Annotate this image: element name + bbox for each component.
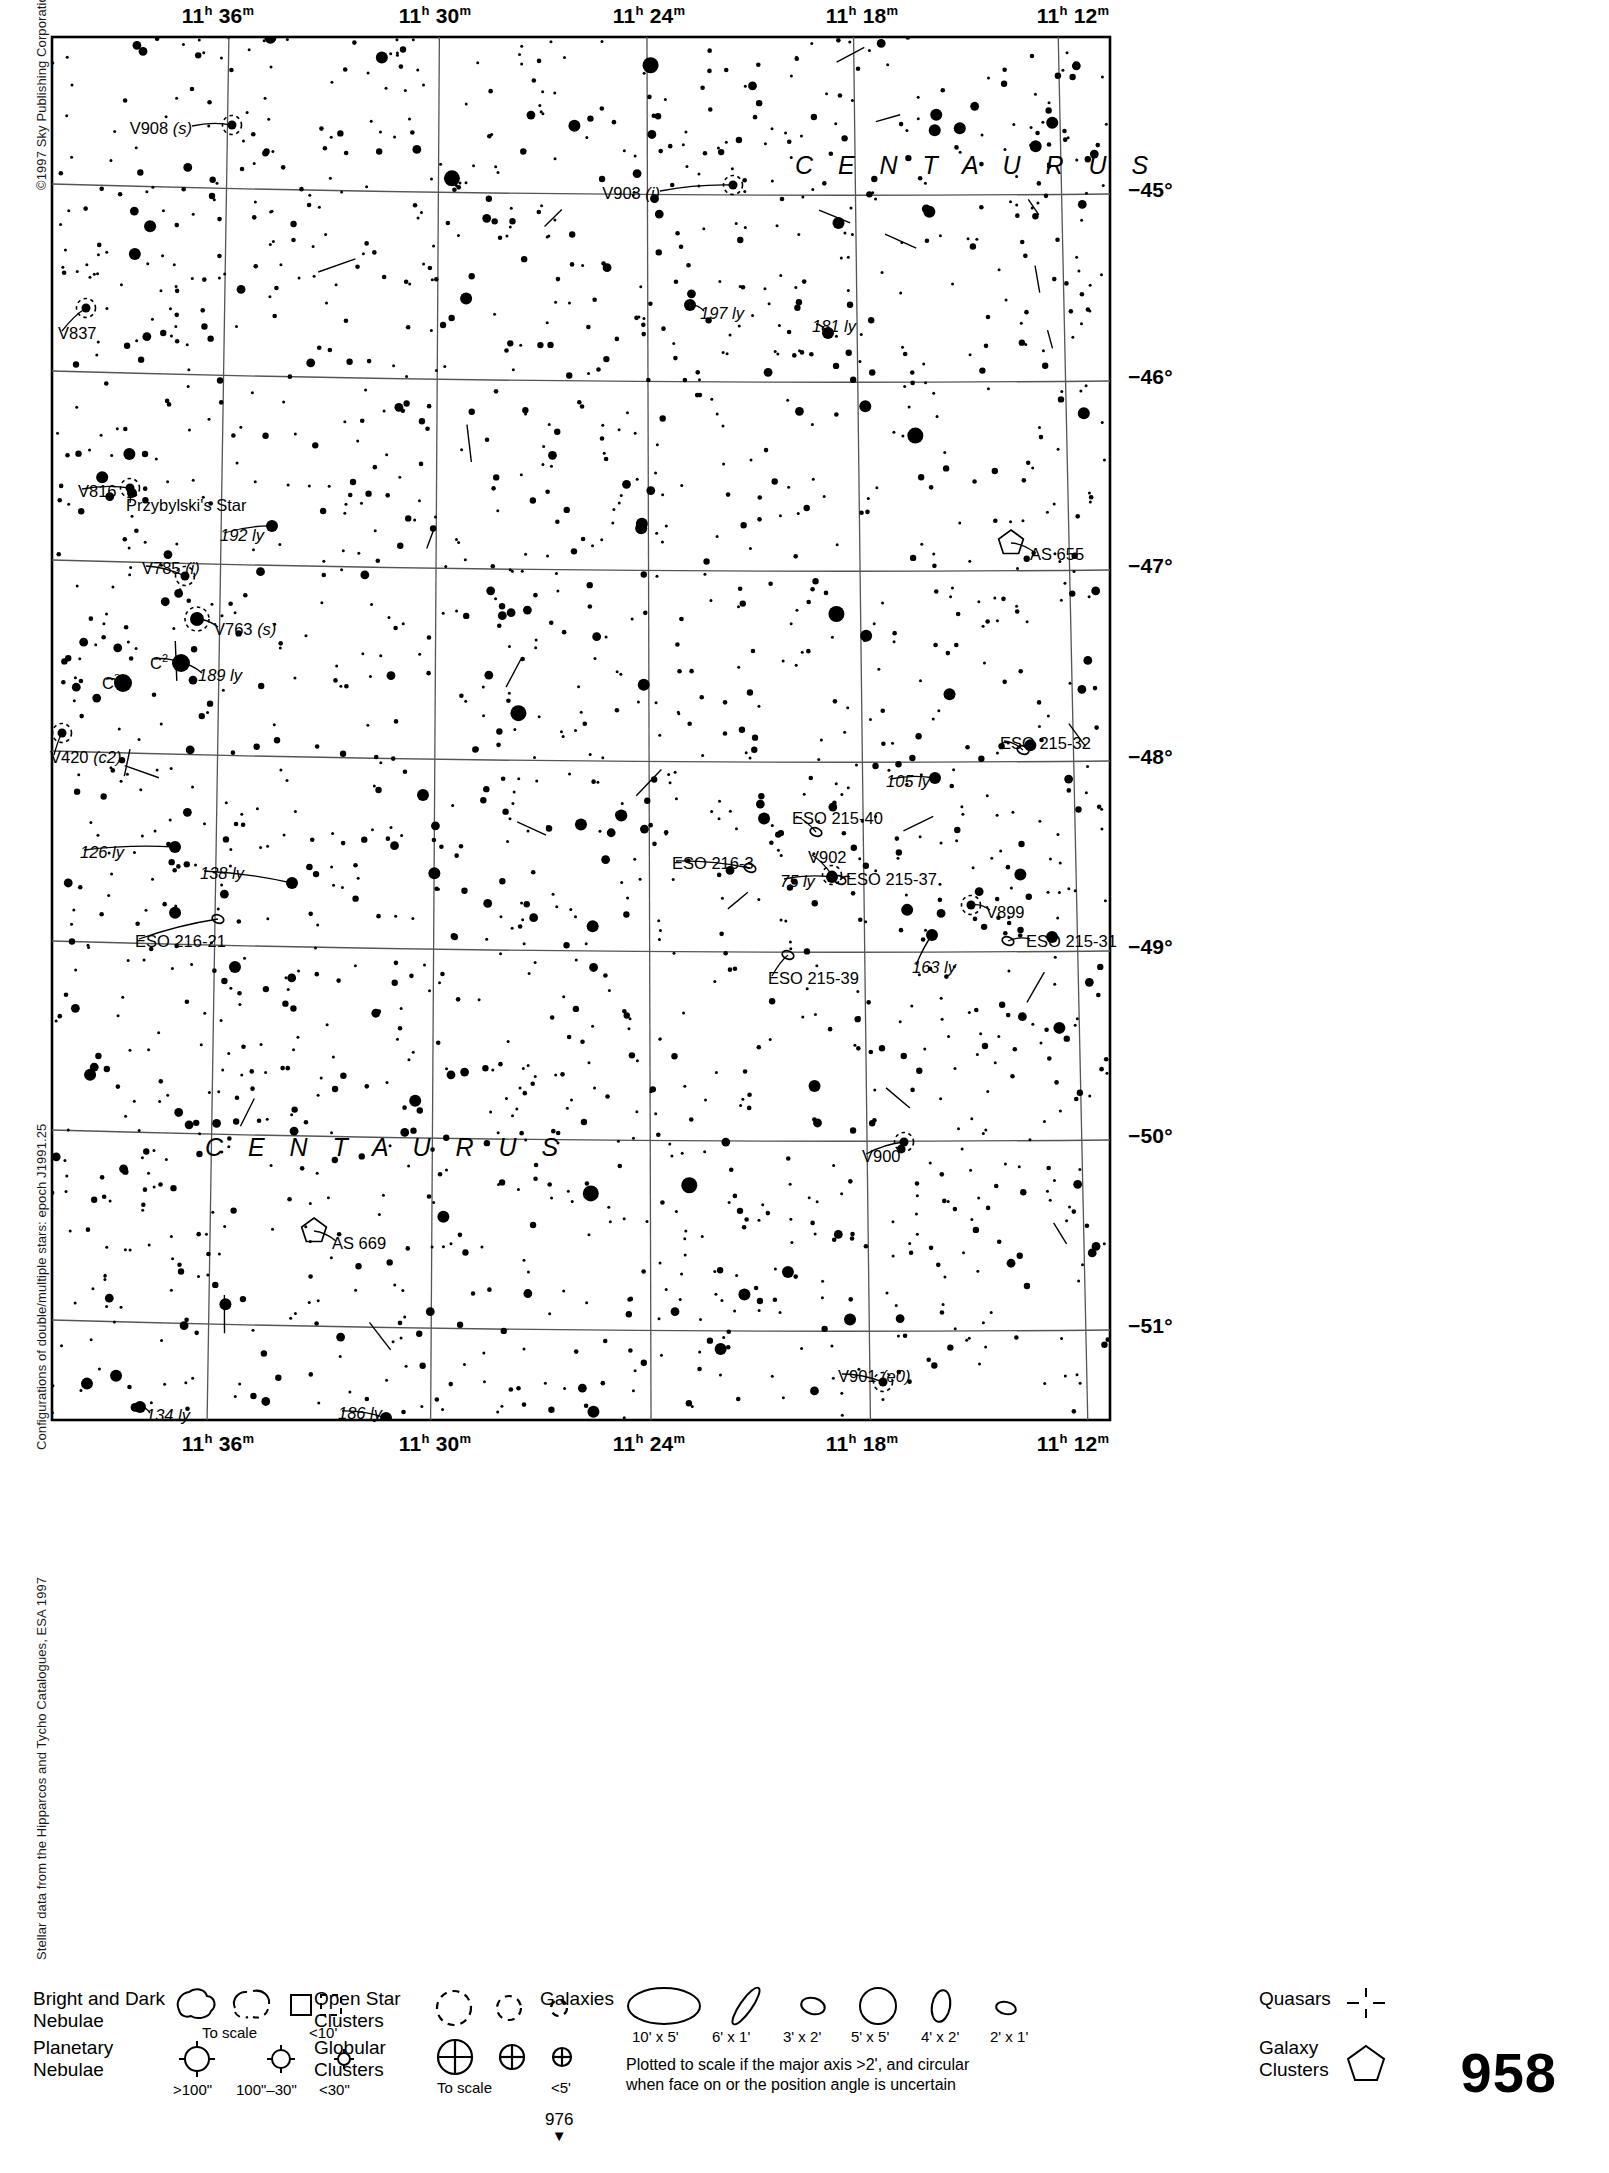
star-dot bbox=[262, 432, 268, 438]
star-dot bbox=[62, 270, 67, 275]
star-dot bbox=[774, 1267, 777, 1270]
object-label-as-669[interactable]: AS 669 bbox=[332, 1235, 386, 1252]
legend-planetary-size-0: >100" bbox=[173, 2081, 212, 2098]
star-dot bbox=[763, 287, 766, 290]
star-dot bbox=[782, 1266, 794, 1278]
star-dot bbox=[449, 1242, 452, 1245]
object-label-v785-i[interactable]: V785 (i) bbox=[142, 560, 200, 577]
object-label-eso-216-21[interactable]: ESO 216-21 bbox=[135, 933, 226, 950]
object-label-v763-s[interactable]: V763 (s) bbox=[214, 621, 276, 638]
star-dot bbox=[566, 372, 572, 378]
star-dot bbox=[554, 301, 557, 304]
object-label-138-ly[interactable]: 138 ly bbox=[200, 865, 244, 882]
object-label-v908-s[interactable]: V908 (s) bbox=[130, 120, 192, 137]
star-dot bbox=[1058, 891, 1061, 894]
star-dot bbox=[553, 219, 556, 222]
star-dot bbox=[1037, 181, 1042, 186]
star-dot bbox=[427, 635, 432, 640]
object-label-197-ly[interactable]: 197 ly bbox=[700, 305, 744, 322]
star-dot bbox=[328, 348, 333, 353]
star-dot bbox=[160, 722, 163, 725]
object-label-v902[interactable]: V902 bbox=[808, 849, 847, 866]
object-label-przybylski-s-star[interactable]: Przybylski's Star bbox=[126, 497, 247, 514]
object-label-c3[interactable]: C3 bbox=[102, 673, 120, 691]
star-dot bbox=[659, 1261, 662, 1264]
object-label-eso-216-3[interactable]: ESO 216-3 bbox=[672, 855, 754, 872]
star-dot bbox=[509, 218, 515, 224]
star-dot bbox=[398, 1321, 403, 1326]
star-dot bbox=[251, 132, 256, 137]
star-dot bbox=[658, 149, 663, 154]
sky-chart[interactable]: 11h 36m11h 30m11h 24m11h 18m11h 12m 11h … bbox=[50, 35, 1112, 1922]
star-dot bbox=[940, 88, 945, 93]
star-dot bbox=[127, 640, 130, 643]
star-dot bbox=[412, 38, 415, 41]
object-label-v816[interactable]: V816 bbox=[78, 483, 117, 500]
star-dot bbox=[1044, 194, 1049, 199]
star-dot bbox=[75, 450, 81, 456]
object-label-75-ly[interactable]: 75 ly bbox=[780, 873, 815, 890]
star-dot bbox=[648, 301, 653, 306]
object-label-134-ly[interactable]: 134 ly bbox=[146, 1407, 190, 1424]
star-dot bbox=[733, 1309, 736, 1312]
star-dot bbox=[718, 800, 721, 803]
star-dot bbox=[306, 359, 315, 368]
object-label-189-ly[interactable]: 189 ly bbox=[198, 667, 242, 684]
star-dot bbox=[89, 821, 92, 824]
object-label-eso-215-39[interactable]: ESO 215-39 bbox=[768, 970, 859, 987]
object-label-v899[interactable]: V899 bbox=[986, 904, 1025, 921]
star-dot bbox=[506, 840, 509, 843]
star-dot bbox=[1034, 93, 1037, 96]
star-dot bbox=[250, 1086, 255, 1091]
star-dot bbox=[1086, 765, 1089, 768]
star-dot bbox=[909, 1250, 914, 1255]
star-dot bbox=[1079, 390, 1082, 393]
object-label-v900[interactable]: V900 bbox=[862, 1148, 901, 1165]
star-dot bbox=[1015, 203, 1018, 206]
object-label-181-ly[interactable]: 181 ly bbox=[812, 318, 856, 335]
star-dot bbox=[738, 586, 743, 591]
star-dot bbox=[722, 425, 725, 428]
star-dot bbox=[835, 782, 838, 785]
star-dot bbox=[1047, 142, 1052, 147]
star-dot bbox=[240, 1296, 246, 1302]
star-dot bbox=[496, 509, 499, 512]
star-dot bbox=[562, 995, 565, 998]
star-dot bbox=[832, 801, 837, 806]
object-label-105-ly[interactable]: 105 ly bbox=[886, 773, 930, 790]
object-label-v903-i[interactable]: V903 (i) bbox=[602, 185, 660, 202]
star-dot bbox=[401, 1410, 406, 1415]
object-label-v420-c2[interactable]: V420 (c2) bbox=[50, 749, 122, 766]
object-label-186-ly[interactable]: 186 ly bbox=[338, 1405, 382, 1422]
star-dot bbox=[568, 120, 580, 132]
star-dot bbox=[943, 1276, 946, 1279]
object-label-eso-215-32[interactable]: ESO 215-32 bbox=[1000, 735, 1091, 752]
star-dot bbox=[518, 924, 523, 929]
star-dot bbox=[444, 170, 460, 186]
star-dot bbox=[141, 1202, 146, 1207]
object-label-as-655[interactable]: AS 655 bbox=[1030, 546, 1084, 563]
object-label-126-ly[interactable]: 126 ly bbox=[80, 844, 124, 861]
object-label-v837[interactable]: V837 bbox=[58, 325, 97, 342]
object-label-c2[interactable]: C2 bbox=[150, 653, 168, 671]
star-dot bbox=[880, 708, 885, 713]
object-label-192-ly[interactable]: 192 ly bbox=[220, 527, 264, 544]
star-dot bbox=[165, 1158, 168, 1161]
star-dot bbox=[270, 66, 273, 69]
adjacent-chart-marker: 976 ▼ bbox=[545, 2110, 573, 2141]
star-dot bbox=[151, 186, 154, 189]
object-label-eso-215-40[interactable]: ESO 215-40 bbox=[792, 810, 883, 827]
star-dot bbox=[131, 515, 134, 518]
object-label-eso-215-31[interactable]: ESO 215-31 bbox=[1026, 933, 1117, 950]
object-label-163-ly[interactable]: 163 ly bbox=[912, 959, 956, 976]
object-label-v901-e0[interactable]: V901 (e0) bbox=[838, 1368, 910, 1385]
star-dot bbox=[664, 98, 667, 101]
star-dot bbox=[1047, 891, 1050, 894]
star-dot bbox=[261, 1350, 267, 1356]
star-dot bbox=[407, 1165, 410, 1168]
star-dot bbox=[360, 502, 363, 505]
star-dot bbox=[103, 1278, 106, 1281]
star-dot bbox=[418, 499, 421, 502]
star-dot bbox=[938, 883, 941, 886]
object-label-eso-215-37[interactable]: ESO 215-37 bbox=[846, 871, 937, 888]
